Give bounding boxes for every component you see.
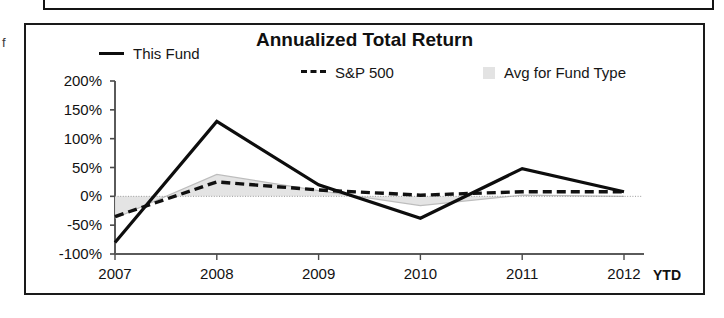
x-axis-tick-label: 2011 <box>493 266 551 281</box>
y-axis-tick-label: 200% <box>40 73 102 88</box>
x-axis-tick-label: 2007 <box>86 266 144 281</box>
chart-canvas <box>26 25 707 297</box>
y-axis-tick-label: 0% <box>40 188 102 203</box>
y-axis-tick-label: 50% <box>40 160 102 175</box>
clipped-panel-above <box>43 0 714 10</box>
chart-panel: Annualized Total Return This Fund S&P 50… <box>24 23 705 295</box>
x-axis-tick-label: 2009 <box>290 266 348 281</box>
y-axis-tick-label: -50% <box>40 217 102 232</box>
x-axis-tick-label: 2012 <box>595 266 653 281</box>
y-axis-tick-label: 100% <box>40 131 102 146</box>
x-axis-ytd-label: YTD <box>653 268 681 282</box>
y-axis-tick-label: 150% <box>40 102 102 117</box>
page-edge-artifact: f <box>2 36 5 49</box>
x-axis-tick-label: 2010 <box>391 266 449 281</box>
y-axis-tick-label: -100% <box>40 246 102 261</box>
plot-area: 200%150%100%50%0%-50%-100%20072008200920… <box>26 25 703 293</box>
x-axis-tick-label: 2008 <box>188 266 246 281</box>
